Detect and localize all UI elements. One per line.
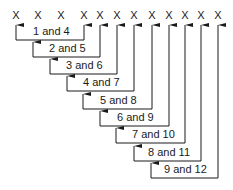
pair-label-9: 9 and 12 — [164, 163, 207, 175]
pair-label-4: 4 and 7 — [83, 76, 120, 88]
pairing-diagram: X X X X X X X X X X X X — [0, 0, 233, 190]
pair-label-3: 3 and 6 — [66, 59, 103, 71]
x-marker-6: X — [113, 9, 121, 21]
pair-label-2: 2 and 5 — [49, 42, 86, 54]
pair-label-8: 8 and 11 — [148, 146, 190, 158]
pair-label-5: 5 and 8 — [100, 94, 137, 106]
pair-labels: 1 and 4 2 and 5 3 and 6 4 and 7 5 and 8 … — [33, 25, 207, 175]
x-marker-11: X — [197, 9, 205, 21]
pair-label-6: 6 and 9 — [117, 111, 154, 123]
x-marker-12: X — [214, 9, 222, 21]
marker-row: X X X X X X X X X X X X — [12, 9, 222, 21]
x-marker-4: X — [80, 9, 88, 21]
pair-label-1: 1 and 4 — [33, 25, 70, 37]
x-marker-9: X — [165, 9, 173, 21]
x-marker-1: X — [12, 9, 20, 21]
x-marker-3: X — [57, 9, 65, 21]
pair-label-7: 7 and 10 — [132, 128, 175, 140]
x-marker-10: X — [181, 9, 189, 21]
x-marker-8: X — [148, 9, 156, 21]
pair-bracket-8 — [134, 25, 201, 161]
x-marker-7: X — [130, 9, 138, 21]
x-marker-5: X — [96, 9, 104, 21]
x-marker-2: X — [34, 9, 42, 21]
pair-bracket-7 — [116, 25, 185, 143]
